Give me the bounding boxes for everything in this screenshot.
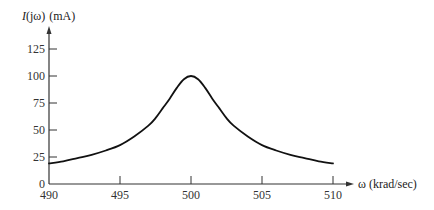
x-axis-arrow-icon: [346, 182, 354, 187]
y-tick-label: 125: [27, 42, 45, 56]
y-axis-arrow-icon: [47, 26, 52, 34]
y-tick-label: 50: [33, 123, 45, 137]
x-tick-label: 500: [182, 188, 200, 202]
x-tick-label: 490: [40, 188, 58, 202]
y-ticks: 0255075100125: [27, 42, 57, 191]
x-ticks: 490495500505510: [40, 176, 342, 202]
x-tick-label: 495: [111, 188, 129, 202]
y-axis-title: I(jω)(mA): [21, 9, 75, 23]
y-tick-label: 100: [27, 69, 45, 83]
x-axis-title: ω (krad/sec): [358, 177, 417, 191]
y-tick-label: 75: [33, 96, 45, 110]
axes: [47, 26, 355, 187]
resonance-chart: 0255075100125 490495500505510 I(jω)(mA) …: [0, 0, 434, 210]
x-tick-label: 510: [324, 188, 342, 202]
x-tick-label: 505: [253, 188, 271, 202]
current-response-curve: [49, 76, 333, 163]
y-tick-label: 25: [33, 150, 45, 164]
